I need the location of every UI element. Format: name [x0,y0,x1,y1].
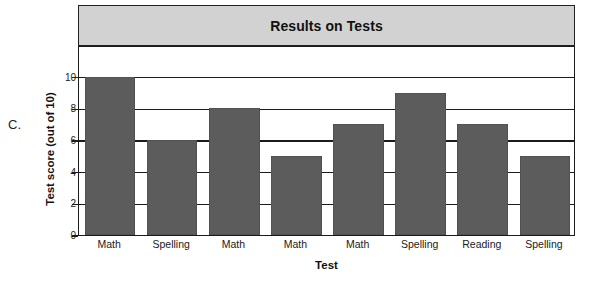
figure-container: C. Results on Tests Test score (out of 1… [0,0,589,285]
x-tick-label: Math [202,238,264,250]
chart-title: Results on Tests [79,18,574,34]
y-tick-mark [72,172,78,173]
y-tick-mark [72,109,78,110]
y-tick-mark [72,204,78,205]
y-tick-mark [72,140,78,141]
x-tick-label: Spelling [513,238,575,250]
x-axis-title: Test [78,259,575,271]
bar-series [79,46,574,235]
x-axis-tick-labels: MathSpellingMathMathMathSpellingReadingS… [78,238,575,254]
x-tick-label: Math [327,238,389,250]
bar [209,108,260,235]
bar [147,140,198,235]
x-tick-label: Spelling [140,238,202,250]
x-tick-label: Math [78,238,140,250]
bar [271,156,322,235]
figure-letter-label: C. [8,117,36,132]
x-tick-label: Reading [451,238,513,250]
bar [520,156,571,235]
x-tick-label: Math [264,238,326,250]
bar [395,93,446,236]
bar [333,124,384,235]
bar [85,77,136,235]
plot-area [78,46,575,236]
bar [457,124,508,235]
x-tick-label: Spelling [389,238,451,250]
y-tick-mark [72,235,78,236]
chart-title-banner: Results on Tests [78,5,575,46]
y-tick-mark [72,77,78,78]
